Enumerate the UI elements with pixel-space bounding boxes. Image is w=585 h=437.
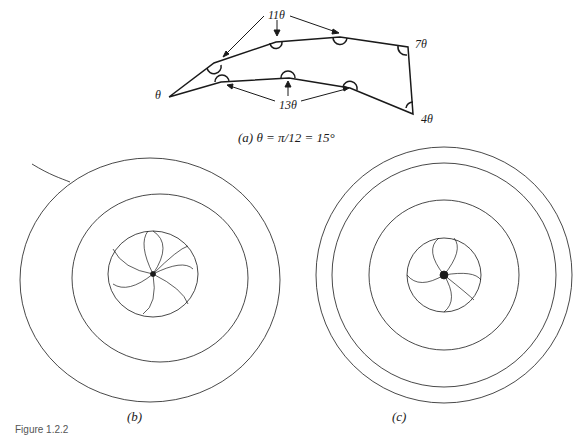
label-7-theta: 7θ — [415, 37, 427, 52]
figure-canvas — [0, 0, 585, 437]
label-11-theta: 11θ — [268, 8, 285, 23]
spiral-tiling-c — [316, 147, 572, 403]
angle-arrows — [223, 16, 349, 101]
spiral-tiling-b — [20, 158, 280, 402]
caption-a: (a) θ = π/12 = 15° — [238, 130, 335, 146]
figure-number: Figure 1.2.2 — [15, 424, 68, 435]
label-theta: θ — [155, 88, 161, 103]
caption-c: (c) — [392, 409, 406, 425]
label-13-theta: 13θ — [279, 98, 297, 113]
caption-b: (b) — [127, 409, 142, 425]
label-4-theta: 4θ — [421, 112, 433, 127]
